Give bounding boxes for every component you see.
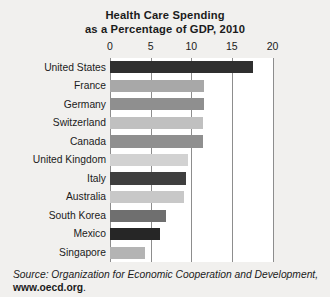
bar	[110, 191, 184, 203]
bar-row	[110, 58, 273, 77]
plot-area	[110, 58, 273, 262]
category-label: South Korea	[0, 210, 106, 222]
bar	[110, 61, 253, 73]
source-period: .	[83, 282, 86, 293]
chart-title: Health Care Spending as a Percentage of …	[0, 9, 330, 36]
bar	[110, 98, 204, 110]
source-note: Source: Organization for Economic Cooper…	[13, 268, 319, 294]
bar-row	[110, 114, 273, 133]
category-label: Italy	[0, 173, 106, 185]
bar-row	[110, 132, 273, 151]
bar	[110, 80, 204, 92]
category-label: France	[0, 80, 106, 92]
category-label: United Kingdom	[0, 154, 106, 166]
bar-row	[110, 169, 273, 188]
x-tick-label-10: 10	[185, 40, 197, 52]
bar	[110, 154, 188, 166]
category-label: Singapore	[0, 247, 106, 259]
category-label: Canada	[0, 136, 106, 148]
x-tick-label-15: 15	[226, 40, 238, 52]
x-axis-tick-labels: 05101520	[0, 40, 330, 55]
bar	[110, 247, 145, 259]
bar-row	[110, 77, 273, 96]
bar	[110, 210, 166, 222]
y-axis-category-labels: United StatesFranceGermanySwitzerlandCan…	[0, 58, 106, 262]
bar-row	[110, 95, 273, 114]
bar	[110, 172, 186, 184]
category-label: Switzerland	[0, 117, 106, 129]
category-label: Germany	[0, 99, 106, 111]
chart-figure: Health Care Spending as a Percentage of …	[0, 0, 330, 297]
bar	[110, 117, 203, 129]
category-label: United States	[0, 62, 106, 74]
bar-row	[110, 225, 273, 244]
bar-row	[110, 244, 273, 263]
bar-row	[110, 188, 273, 207]
bar	[110, 135, 203, 147]
bar-row	[110, 151, 273, 170]
chart-title-line-2: as a Percentage of GDP, 2010	[0, 23, 330, 37]
category-label: Australia	[0, 191, 106, 203]
bar-rows	[110, 58, 273, 262]
x-tick-label-20: 20	[267, 40, 279, 52]
source-prefix: Source:	[13, 269, 49, 280]
x-tick-label-5: 5	[148, 40, 154, 52]
x-tick-label-0: 0	[107, 40, 113, 52]
category-label: Mexico	[0, 228, 106, 240]
bar-row	[110, 206, 273, 225]
chart-title-line-1: Health Care Spending	[0, 9, 330, 23]
source-text: Organization for Economic Cooperation an…	[49, 269, 319, 280]
bar	[110, 228, 160, 240]
source-url[interactable]: www.oecd.org	[13, 282, 83, 293]
